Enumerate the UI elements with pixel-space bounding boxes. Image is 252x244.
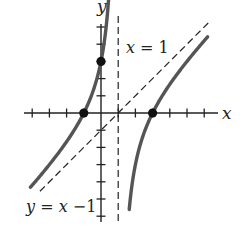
left-branch-curve: [30, 0, 108, 187]
slant-asymptote: [40, 23, 209, 192]
vertical-asymptote-label: x = 1: [126, 38, 169, 57]
intercept-point: [96, 57, 105, 66]
intercept-point: [148, 108, 157, 117]
axes: [24, 24, 218, 222]
asymptotes: [40, 16, 209, 224]
curves: [30, 0, 207, 209]
x-axis-label: x: [222, 103, 232, 123]
graph: y x x = 1 y = x −1: [0, 0, 252, 244]
intercept-point: [79, 108, 88, 117]
slant-asymptote-label: y = x −1: [25, 197, 96, 216]
y-axis-label: y: [96, 0, 107, 16]
